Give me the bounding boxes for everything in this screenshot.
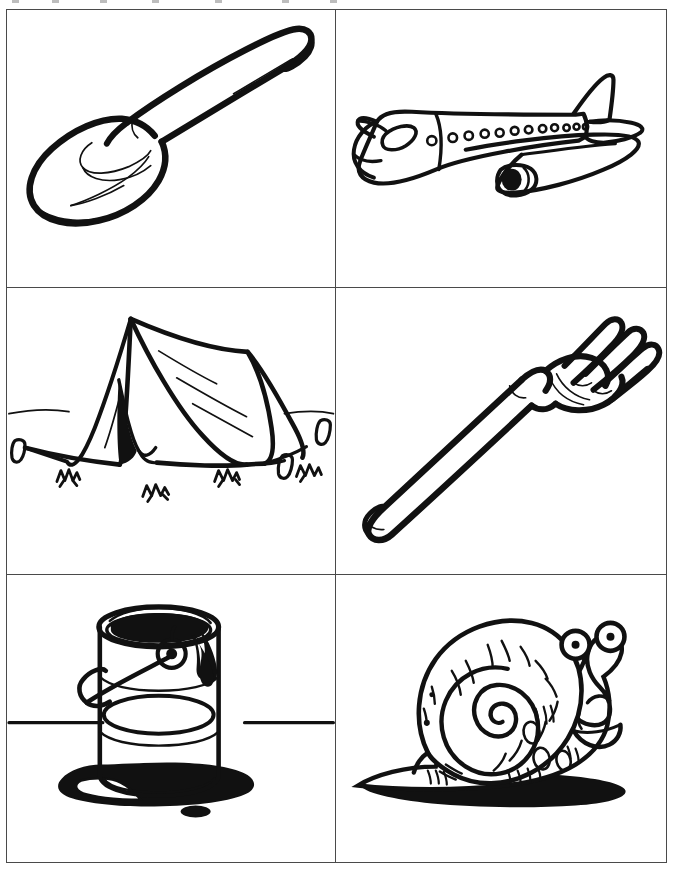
tent-icon <box>7 288 335 574</box>
snail-icon <box>336 575 665 861</box>
picture-panel-airplane[interactable] <box>335 9 666 288</box>
paint-can-icon <box>7 575 335 861</box>
picture-panel-tent[interactable] <box>6 287 336 575</box>
picture-panel-snail[interactable] <box>335 574 666 862</box>
worksheet-sheet <box>0 0 673 872</box>
picture-panel-paint-can[interactable] <box>6 574 336 862</box>
picture-panel-spoon[interactable] <box>6 9 336 288</box>
picture-grid <box>7 10 666 862</box>
picture-panel-fork[interactable] <box>335 287 666 575</box>
spoon-icon <box>7 10 335 287</box>
scan-edge-artifact <box>0 0 673 5</box>
fork-icon <box>336 288 665 574</box>
airplane-icon <box>336 10 665 287</box>
